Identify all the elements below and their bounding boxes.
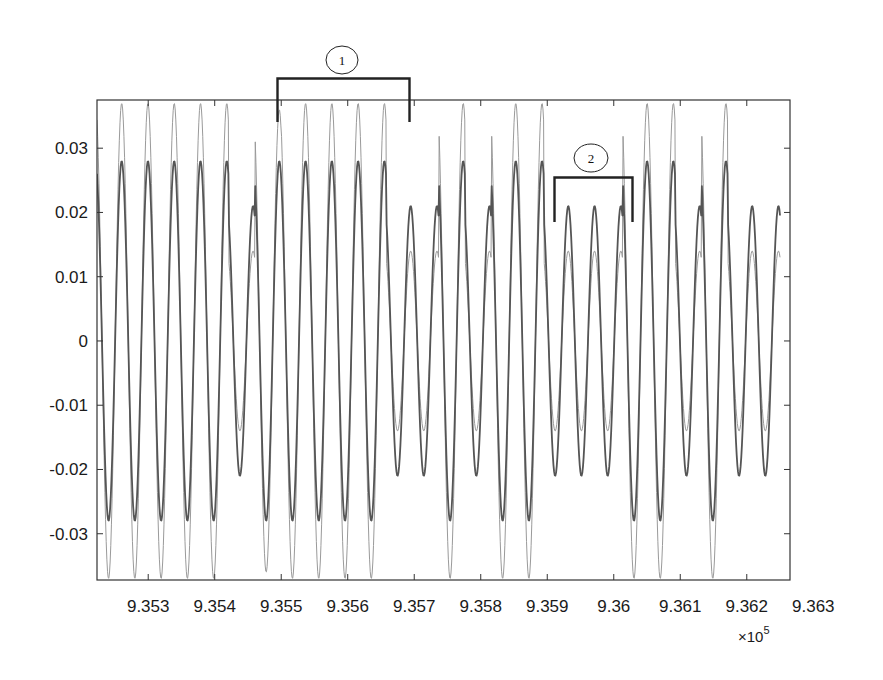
x-tick-label: 9.359 [526, 597, 569, 616]
chart-figure: 9.3539.3549.3559.3569.3579.3589.3599.369… [0, 0, 883, 680]
annotation-2-label: 2 [588, 151, 595, 166]
x-tick-label: 9.358 [459, 597, 502, 616]
x-tick-label: 9.355 [260, 597, 303, 616]
y-tick-label: 0.02 [55, 203, 88, 222]
y-tick-label: -0.02 [49, 460, 88, 479]
x-tick-label: 9.36 [597, 597, 630, 616]
x-tick-label: 9.363 [792, 597, 835, 616]
plot-area [97, 100, 790, 580]
x-tick-label: 9.357 [393, 597, 436, 616]
y-tick-label: 0.03 [55, 139, 88, 158]
x-tick-label: 9.354 [193, 597, 236, 616]
annotation-1-label: 1 [339, 53, 346, 68]
y-tick-label: -0.01 [49, 396, 88, 415]
x-multiplier-label: ×105 [738, 624, 770, 645]
y-tick-label: 0 [79, 332, 88, 351]
x-tick-label: 9.361 [659, 597, 702, 616]
x-multiplier: ×105 [738, 624, 770, 645]
y-tick-label: 0.01 [55, 268, 88, 287]
x-tick-label: 9.362 [725, 597, 768, 616]
x-tick-label: 9.353 [127, 597, 170, 616]
y-tick-label: -0.03 [49, 525, 88, 544]
x-tick-label: 9.356 [326, 597, 369, 616]
